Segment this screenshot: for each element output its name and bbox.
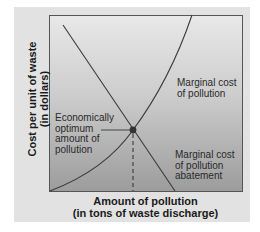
x-axis-label-line1: Amount of pollution (49, 195, 242, 207)
annot-line: Marginal cost (177, 78, 236, 89)
annot-line: Marginal cost (175, 150, 234, 161)
annot-line: of pollution (177, 89, 236, 100)
y-axis-label: Cost per unit of waste (in dollars) (26, 19, 50, 179)
marginal-cost-abatement-label: Marginal cost of pollution abatement (175, 150, 234, 182)
annot-line: amount of (55, 134, 114, 145)
optimum-label: Economically optimum amount of pollution (55, 113, 114, 155)
y-axis-label-line1: Cost per unit of waste (26, 19, 38, 179)
annot-line: pollution (55, 145, 114, 156)
marginal-cost-pollution-label: Marginal cost of pollution (177, 78, 236, 99)
x-axis-label: Amount of pollution (in tons of waste di… (49, 195, 242, 219)
annot-line: Economically (55, 113, 114, 124)
optimum-point (130, 127, 137, 134)
x-axis-label-line2: (in tons of waste discharge) (49, 207, 242, 219)
annot-line: abatement (175, 171, 234, 182)
y-axis-label-line2: (in dollars) (38, 19, 50, 179)
